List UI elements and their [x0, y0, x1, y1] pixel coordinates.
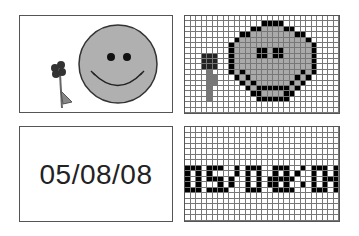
- vector-smiley-panel: [19, 15, 173, 113]
- flower-icon: [51, 61, 72, 108]
- grid-cell: [334, 215, 340, 221]
- smiley-face-icon: [79, 25, 157, 103]
- date-text: 05/08/08: [20, 159, 172, 191]
- smiley-flower-illustration: [20, 16, 174, 114]
- bitmap-smiley-grid: [184, 15, 340, 114]
- bitmap-date-grid: [184, 126, 340, 222]
- vector-date-panel: 05/08/08: [19, 126, 173, 222]
- grid-cell: [334, 108, 340, 113]
